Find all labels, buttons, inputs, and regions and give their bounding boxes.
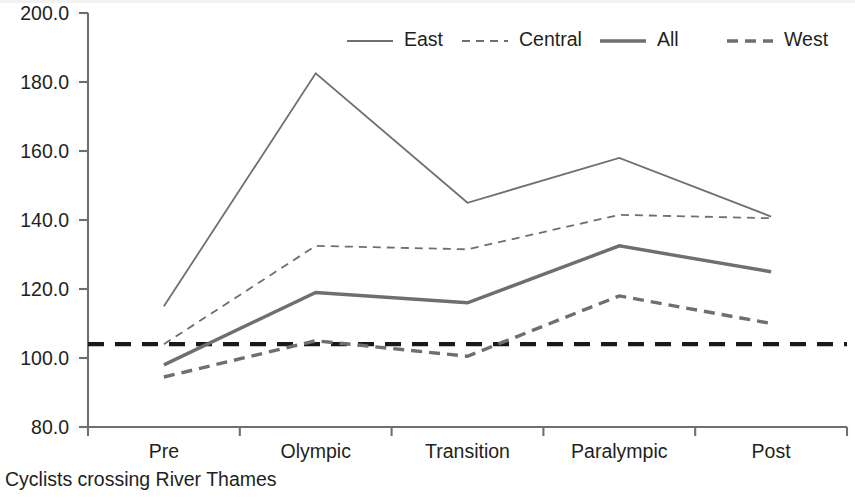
legend-label-central: Central (519, 28, 582, 50)
x-tick-label: Transition (425, 440, 510, 462)
y-tick-label: 180.0 (20, 71, 69, 93)
y-tick-label: 80.0 (31, 416, 69, 438)
series-lines (164, 73, 771, 377)
x-tick-label: Post (752, 440, 792, 462)
series-line-central (164, 215, 771, 344)
y-tick-label: 140.0 (20, 209, 69, 231)
line-chart: 200.0180.0160.0140.0120.0100.080.0 PreOl… (0, 0, 855, 462)
y-tick-label: 120.0 (20, 278, 69, 300)
y-tick-label: 200.0 (20, 2, 69, 24)
chart-caption: Cyclists crossing River Thames (5, 468, 277, 491)
y-tick-labels: 200.0180.0160.0140.0120.0100.080.0 (20, 2, 69, 438)
x-tick-labels: PreOlympicTransitionParalympicPost (149, 440, 791, 462)
series-line-west (164, 296, 771, 377)
figure-container: 200.0180.0160.0140.0120.0100.080.0 PreOl… (0, 0, 855, 499)
chart-legend: EastCentralAllWest (347, 28, 829, 50)
y-tick-marks (79, 13, 88, 427)
x-tick-marks (88, 427, 847, 436)
legend-label-all: All (657, 28, 679, 50)
series-line-east (164, 73, 771, 306)
x-tick-label: Pre (149, 440, 179, 462)
x-tick-label: Olympic (280, 440, 351, 462)
x-tick-label: Paralympic (571, 440, 668, 462)
y-tick-label: 160.0 (20, 140, 69, 162)
x-axis-group: PreOlympicTransitionParalympicPost (88, 427, 847, 462)
legend-label-east: East (404, 28, 444, 50)
chart-canvas: 200.0180.0160.0140.0120.0100.080.0 PreOl… (0, 0, 855, 462)
series-line-all (164, 246, 771, 365)
y-tick-label: 100.0 (20, 347, 69, 369)
legend-label-west: West (784, 28, 829, 50)
y-axis-group: 200.0180.0160.0140.0120.0100.080.0 (20, 2, 88, 438)
